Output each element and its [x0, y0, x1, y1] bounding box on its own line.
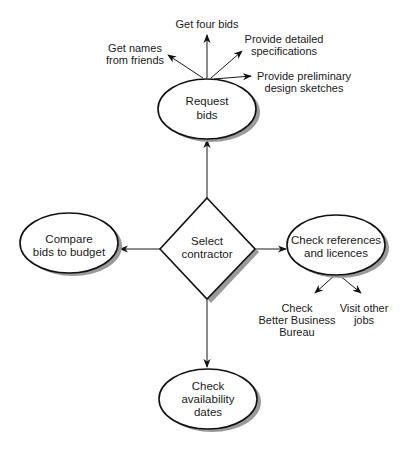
node-select-contractor: Select contractor — [160, 198, 259, 303]
leaf-design-sketches-line-1: Provide preliminary — [257, 70, 352, 82]
leaf-detailed-specs-line-2: specifications — [251, 45, 318, 57]
node-availability-line-1: Check — [192, 380, 225, 392]
node-compare-line-2: bids to budget — [33, 246, 106, 258]
leaf-get-four-bids: Get four bids — [176, 18, 239, 30]
node-compare-line-1: Compare — [45, 233, 92, 245]
node-request-bids-line-1: Request — [186, 95, 230, 107]
node-check-availability: Check availability dates — [159, 369, 261, 432]
leaf-get-names-line-2: from friends — [106, 54, 165, 66]
node-availability-line-2: availability — [181, 393, 234, 405]
leaf-design-sketches: Provide preliminary design sketches — [257, 70, 352, 94]
leaf-detailed-specs-line-1: Provide detailed — [245, 33, 324, 45]
node-request-bids: Request bids — [158, 79, 260, 142]
node-check-references: Check references and licences — [287, 215, 389, 278]
edge-request-sketches — [214, 76, 251, 79]
diagram-canvas: Request bids Compare bids to budget Chec… — [0, 0, 407, 455]
node-compare-bids: Compare bids to budget — [20, 213, 122, 276]
leaf-better-business-bureau: Check Better Business Bureau — [258, 302, 336, 338]
leaf-visit-other-jobs: Visit other jobs — [340, 302, 389, 326]
edge-request-specs — [211, 51, 242, 78]
edge-request-names — [168, 55, 203, 78]
leaf-detailed-specs: Provide detailed specifications — [245, 33, 324, 57]
leaf-get-four-bids-line-1: Get four bids — [176, 18, 239, 30]
edge-references-bbb — [315, 275, 335, 293]
leaf-design-sketches-line-2: design sketches — [265, 82, 344, 94]
leaf-visit-line-1: Visit other — [340, 302, 389, 314]
leaf-visit-line-2: jobs — [353, 314, 375, 326]
node-references-line-1: Check references — [291, 234, 381, 246]
node-references-line-2: and licences — [304, 247, 368, 259]
leaf-get-names-line-1: Get names — [108, 42, 162, 54]
leaf-bbb-line-2: Better Business — [258, 314, 336, 326]
node-request-bids-line-2: bids — [196, 109, 217, 121]
leaf-bbb-line-3: Bureau — [279, 326, 314, 338]
leaf-get-names: Get names from friends — [106, 42, 165, 66]
node-select-line-1: Select — [191, 235, 224, 247]
node-select-line-2: contractor — [181, 248, 232, 260]
node-availability-line-3: dates — [194, 406, 222, 418]
leaf-bbb-line-1: Check — [281, 302, 313, 314]
